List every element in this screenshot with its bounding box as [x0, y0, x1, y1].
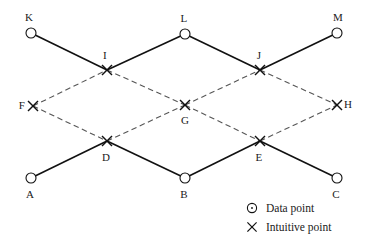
- edge-dashed-F-D: [33, 106, 107, 141]
- node-marker-G-cross: [180, 100, 190, 110]
- node-marker-A-circle: [26, 173, 36, 183]
- edge-solid-D-B: [107, 141, 185, 178]
- edge-solid-I-L: [107, 34, 185, 70]
- node-marker-I-cross: [102, 65, 112, 75]
- node-marker-D-cross: [102, 136, 112, 146]
- edge-solid-E-C: [260, 141, 337, 178]
- legend-label-1: Intuitive point: [266, 221, 331, 233]
- edge-dashed-I-G: [107, 70, 185, 105]
- node-label-F: F: [19, 100, 25, 111]
- node-marker-H-cross: [332, 100, 342, 110]
- edge-solid-B-E: [185, 141, 260, 178]
- edge-solid-L-J: [185, 34, 260, 70]
- node-marker-group: [26, 28, 342, 183]
- node-marker-E-cross: [255, 136, 265, 146]
- node-marker-B-circle: [180, 173, 190, 183]
- node-marker-M-circle: [332, 28, 342, 38]
- node-label-K: K: [25, 12, 33, 23]
- edge-dashed-F-I: [33, 70, 107, 106]
- node-label-G: G: [181, 115, 189, 126]
- node-label-J: J: [257, 50, 261, 61]
- edge-solid-A-D: [31, 141, 107, 178]
- edge-dashed-G-E: [185, 105, 260, 141]
- edge-solid-J-M: [260, 33, 337, 70]
- edge-solid-K-I: [31, 33, 107, 70]
- legend-cross-x-icon: [247, 222, 256, 231]
- node-label-M: M: [333, 12, 343, 23]
- node-label-H: H: [344, 99, 352, 110]
- node-label-A: A: [26, 189, 34, 200]
- node-marker-F-cross: [28, 101, 38, 111]
- node-label-C: C: [332, 189, 340, 200]
- node-label-B: B: [180, 189, 188, 200]
- legend-circle-dot-icon: [247, 203, 256, 212]
- node-label-I: I: [103, 50, 107, 61]
- node-label-L: L: [181, 13, 188, 24]
- legend-label-0: Data point: [266, 202, 314, 214]
- node-label-D: D: [102, 152, 110, 163]
- node-marker-L-circle: [180, 29, 190, 39]
- diagram-canvas: KLMIJFGHDEABC Data pointIntuitive point: [0, 0, 367, 243]
- node-marker-C-circle: [332, 173, 342, 183]
- edge-dashed-G-J: [185, 70, 260, 105]
- edge-dashed-E-H: [260, 105, 337, 141]
- edge-dashed-J-H: [260, 70, 337, 105]
- node-marker-J-cross: [255, 65, 265, 75]
- node-label-E: E: [256, 152, 263, 163]
- legend-marker-group: [247, 203, 256, 231]
- node-marker-K-circle: [26, 28, 36, 38]
- edge-dashed-D-G: [107, 105, 185, 141]
